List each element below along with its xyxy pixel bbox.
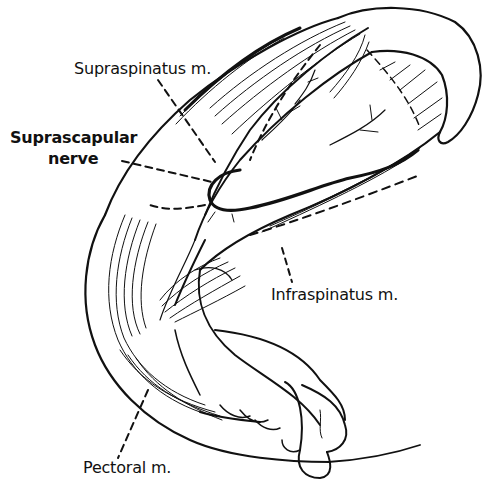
- label-supraspinatus: Supraspinatus m.: [74, 61, 211, 77]
- shoulder-drawing: [0, 0, 483, 492]
- humeral-head-outline: [338, 8, 481, 143]
- pectoral-muscle: [85, 215, 330, 462]
- label-pectoral: Pectoral m.: [83, 460, 171, 476]
- infraspinatus-muscle: [195, 51, 447, 270]
- leader-suprascapular-nerve: [122, 161, 212, 182]
- label-nerve: nerve: [48, 151, 98, 167]
- inner-arm-contour-2: [175, 330, 200, 395]
- label-infraspinatus: Infraspinatus m.: [271, 287, 398, 303]
- nerve-course-dashed: [150, 205, 205, 209]
- leader-infraspinatus: [282, 248, 292, 282]
- label-suprascapular: Suprascapular: [10, 130, 137, 146]
- anatomy-illustration: Supraspinatus m. Suprascapular nerve Inf…: [0, 0, 483, 492]
- lower-arm-contour: [215, 330, 345, 420]
- hand-structure: [220, 382, 420, 478]
- hidden-contour-dashed-2: [367, 50, 420, 128]
